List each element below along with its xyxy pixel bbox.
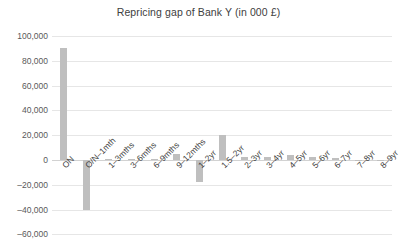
- y-axis-tick-label: –20,000: [0, 180, 48, 190]
- y-axis-tick-label: 80,000: [0, 56, 48, 66]
- y-axis-tick-label: –60,000: [0, 229, 48, 239]
- y-axis-tick-label: 100,000: [0, 31, 48, 41]
- bar: [60, 48, 67, 160]
- y-axis-tick-label: 60,000: [0, 81, 48, 91]
- y-axis-tick-label: –40,000: [0, 205, 48, 215]
- chart-title: Repricing gap of Bank Y (in 000 £): [0, 6, 397, 18]
- y-axis-tick-label: 40,000: [0, 105, 48, 115]
- x-axis-labels: ONO/N–1mth1–3mths3–6mths6–9mths9–12mths1…: [52, 160, 392, 247]
- y-axis-tick-label: 20,000: [0, 130, 48, 140]
- y-axis-labels: 100,00080,00060,00040,00020,0000–20,000–…: [0, 36, 48, 234]
- y-axis-tick-label: 0: [0, 155, 48, 165]
